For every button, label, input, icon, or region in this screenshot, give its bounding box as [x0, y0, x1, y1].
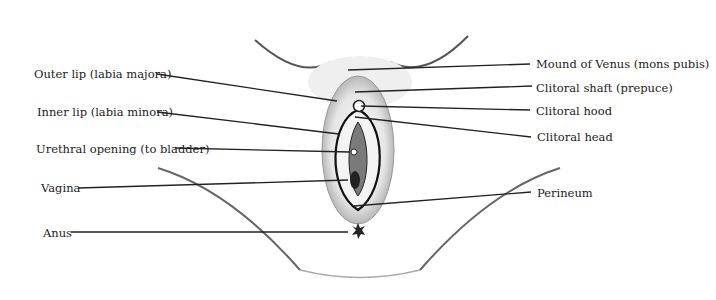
leader-line-clitoral-hood	[361, 106, 530, 110]
label-clitoral-shaft: Clitoral shaft (prepuce)	[536, 81, 673, 95]
anatomy-diagram: Outer lip (labia majora) Inner lip (labi…	[0, 0, 716, 300]
label-urethral-opening: Urethral opening (to bladder)	[36, 142, 209, 156]
label-outer-lip: Outer lip (labia majora)	[34, 67, 171, 81]
leader-line-clitoral-shaft	[355, 86, 532, 92]
label-clitoral-head: Clitoral head	[537, 130, 613, 144]
label-anus: Anus	[43, 226, 72, 240]
leader-line-vagina	[78, 180, 348, 188]
leader-line-outer-lip	[157, 74, 337, 101]
label-inner-lip: Inner lip (labia minora)	[37, 105, 173, 119]
leader-line-clitoral-head	[355, 117, 531, 137]
leader-line-perineum	[354, 192, 531, 206]
label-clitoral-hood: Clitoral hood	[536, 104, 612, 118]
label-perineum: Perineum	[537, 186, 593, 200]
label-vagina: Vagina	[41, 181, 80, 195]
leader-line-mons-pubis	[348, 64, 530, 70]
leader-line-inner-lip	[157, 112, 339, 134]
label-mons-pubis: Mound of Venus (mons pubis)	[536, 57, 709, 71]
